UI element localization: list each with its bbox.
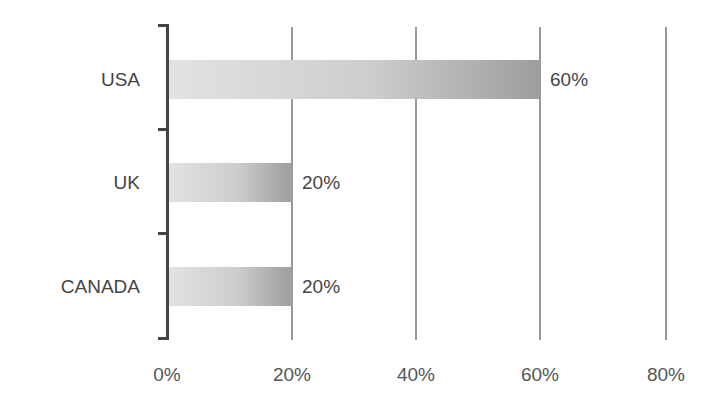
x-tick-label-80: 80% bbox=[647, 365, 685, 385]
value-label-canada: 20% bbox=[302, 277, 340, 297]
y-tick bbox=[158, 232, 168, 235]
category-label-canada: CANADA bbox=[61, 277, 140, 297]
y-tick bbox=[158, 337, 168, 340]
category-label-usa: USA bbox=[101, 70, 140, 90]
y-tick bbox=[158, 128, 168, 131]
y-tick bbox=[158, 24, 168, 27]
x-tick-label-20: 20% bbox=[273, 365, 311, 385]
category-label-uk: UK bbox=[114, 173, 140, 193]
bar-canada bbox=[169, 267, 292, 306]
x-tick-label-60: 60% bbox=[521, 365, 559, 385]
x-tick-label-40: 40% bbox=[397, 365, 435, 385]
bar-chart: USA UK CANADA 60% 20% 20% 0% 20% 40% 60%… bbox=[0, 0, 726, 420]
gridline-80 bbox=[665, 27, 667, 340]
x-tick-label-0: 0% bbox=[153, 365, 180, 385]
value-label-uk: 20% bbox=[302, 173, 340, 193]
bar-uk bbox=[169, 163, 292, 202]
bar-usa bbox=[169, 60, 540, 99]
value-label-usa: 60% bbox=[550, 70, 588, 90]
y-axis bbox=[166, 24, 169, 340]
